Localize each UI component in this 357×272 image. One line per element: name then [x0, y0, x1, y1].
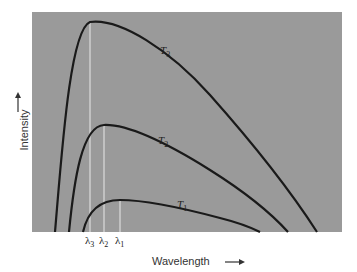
lambda1-label: λ1 — [115, 234, 124, 249]
x-axis-arrow-icon — [225, 259, 245, 265]
curve-label-t3: T3 — [160, 44, 170, 59]
t2-sub: 2 — [164, 140, 168, 149]
t3-sub: 3 — [166, 50, 170, 59]
l2-sub: 2 — [104, 240, 108, 249]
t1-sub: 1 — [183, 204, 187, 213]
curve-label-t2: T2 — [158, 134, 168, 149]
lambda2-label: λ2 — [99, 234, 108, 249]
l1-sub: 1 — [120, 240, 124, 249]
curve-label-t1: T1 — [177, 198, 187, 213]
l3-sub: 3 — [90, 240, 94, 249]
lambda3-label: λ3 — [85, 234, 94, 249]
x-axis-label: Wavelength — [152, 255, 210, 267]
y-axis-label: Intensity — [18, 90, 30, 170]
chart-canvas — [0, 0, 357, 272]
